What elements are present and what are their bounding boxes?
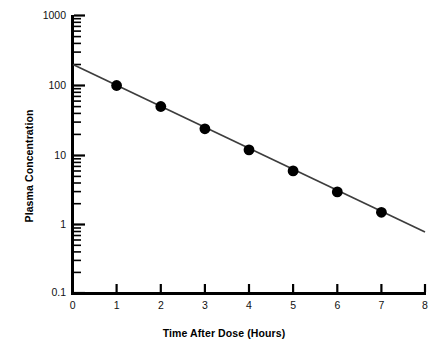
y-tick-label-0-1: 0.1	[20, 287, 66, 298]
data-point	[244, 145, 255, 156]
x-tick-label-0: 0	[61, 300, 85, 311]
x-tick-label-5: 5	[281, 300, 305, 311]
y-axis-minor-ticks	[74, 19, 81, 273]
data-point	[332, 187, 343, 198]
x-tick-label-8: 8	[413, 300, 437, 311]
x-axis-ticks	[73, 284, 426, 292]
x-axis-title: Time After Dose (Hours)	[0, 327, 448, 339]
x-tick-label-2: 2	[149, 300, 173, 311]
y-tick-label-1000: 1000	[20, 10, 66, 21]
chart-container: 1000 100 10 1 0.1 0 1 2 3 4 5 6 7 8 Time…	[0, 0, 448, 352]
x-tick-label-4: 4	[237, 300, 261, 311]
data-point	[155, 101, 166, 112]
data-point	[111, 80, 122, 91]
x-tick-label-6: 6	[325, 300, 349, 311]
x-tick-label-3: 3	[193, 300, 217, 311]
x-tick-label-1: 1	[105, 300, 129, 311]
data-point-group	[111, 80, 387, 218]
data-point	[288, 166, 299, 177]
data-point	[200, 123, 211, 134]
x-tick-label-7: 7	[369, 300, 393, 311]
data-point	[376, 207, 387, 218]
y-axis-title: Plasma Concentration	[23, 86, 35, 246]
